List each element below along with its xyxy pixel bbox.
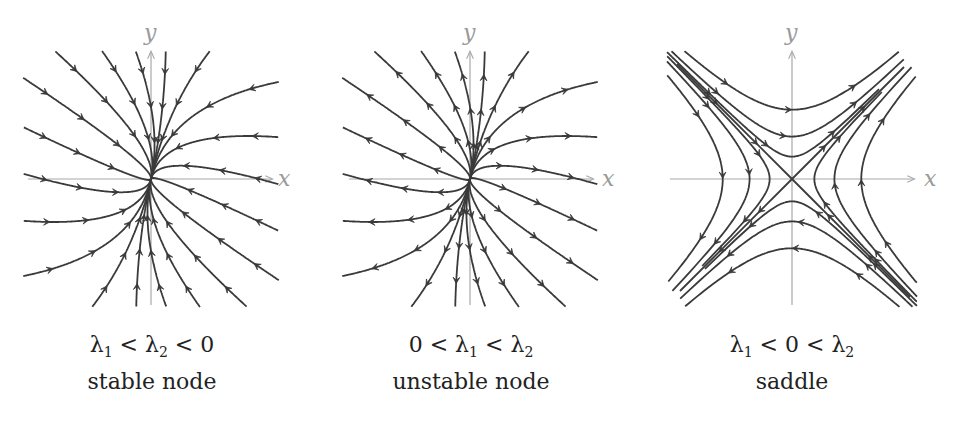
trajectory-curve — [470, 178, 597, 231]
trajectory-curve — [151, 136, 278, 179]
unstable-node-panel: x y — [342, 20, 615, 307]
x-axis-label: x — [602, 166, 615, 191]
trajectory-curve — [677, 64, 792, 179]
trajectory-curve — [667, 52, 879, 157]
trajectory-curve — [705, 201, 917, 306]
trajectory-curve — [470, 82, 598, 179]
cond-sub: 2 — [524, 344, 533, 360]
trajectory-curve — [343, 174, 470, 193]
axes: x y — [670, 20, 937, 305]
y-axis-label: y — [784, 20, 798, 45]
cond-part: < λ — [113, 332, 159, 357]
eigenvalue-condition: λ1 < 0 < λ2 — [672, 330, 912, 367]
trajectory-curve — [342, 78, 470, 179]
stable-node-panel: x y — [23, 20, 291, 307]
cond-part: < λ — [478, 332, 524, 357]
saddle-caption: λ1 < 0 < λ2 saddle — [672, 330, 912, 397]
trajectory-curve — [102, 51, 152, 179]
cond-sub: 2 — [159, 344, 168, 360]
trajectory-curve — [23, 179, 151, 276]
trajectory-curve — [792, 179, 910, 297]
y-axis-label: y — [143, 20, 157, 45]
saddle-panel: x y — [667, 20, 937, 307]
cond-sub: 1 — [469, 344, 478, 360]
cond-part: λ — [90, 332, 104, 357]
x-axis-label: x — [924, 166, 937, 191]
trajectory-curve — [680, 179, 792, 291]
trajectory-curve — [792, 67, 904, 179]
trajectory-curve — [24, 179, 151, 222]
portrait-type-label: saddle — [672, 367, 912, 397]
portrait-type-label: stable node — [32, 367, 272, 397]
eigenvalue-condition: 0 < λ1 < λ2 — [351, 330, 591, 367]
trajectory-curve — [667, 56, 769, 266]
trajectory-curve — [814, 92, 916, 302]
eigenvalue-condition: λ1 < λ2 < 0 — [32, 330, 272, 367]
cond-part: 0 < λ — [409, 332, 469, 357]
trajectory-curve — [421, 51, 471, 179]
cond-sub: 1 — [104, 344, 113, 360]
trajectory-curve — [342, 179, 470, 276]
cond-sub: 1 — [744, 344, 753, 360]
trajectory-curve — [343, 127, 470, 180]
trajectory-curve — [470, 166, 597, 185]
unstable-node-caption: 0 < λ1 < λ2 unstable node — [351, 330, 591, 397]
trajectory-curve — [150, 179, 200, 307]
cond-sub: 2 — [845, 344, 854, 360]
trajectory-curve — [151, 82, 279, 179]
trajectory-curve — [470, 179, 598, 280]
portrait-type-label: unstable node — [351, 367, 591, 397]
x-axis-label: x — [278, 166, 291, 191]
y-axis-label: y — [462, 20, 476, 45]
cond-part: < 0 < λ — [753, 332, 846, 357]
trajectory-curve — [469, 179, 519, 307]
stable-node-caption: λ1 < λ2 < 0 stable node — [32, 330, 272, 397]
cond-part: < 0 — [168, 332, 214, 357]
cond-part: λ — [730, 332, 744, 357]
